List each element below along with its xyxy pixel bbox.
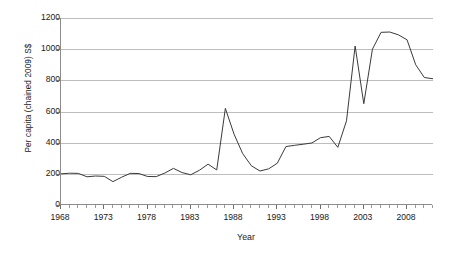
x-axis-tick-label: 1973 [83, 212, 123, 222]
x-axis-minor-tick [432, 205, 433, 208]
x-axis-minor-tick [380, 205, 381, 208]
x-axis-minor-tick [294, 205, 295, 208]
x-axis-minor-tick [328, 205, 329, 208]
y-axis-tick-label: 800 [26, 75, 60, 84]
x-axis-minor-tick [423, 205, 424, 208]
x-axis-minor-tick [155, 205, 156, 208]
x-axis-tick-label: 2003 [343, 212, 383, 222]
x-axis-minor-tick [371, 205, 372, 208]
x-axis-minor-tick [302, 205, 303, 208]
x-axis-minor-tick [138, 205, 139, 208]
x-axis-minor-tick [216, 205, 217, 208]
x-axis-tick-label: 1993 [256, 212, 296, 222]
x-axis-tick-group: 196819731978198319881993199820032008 [0, 205, 449, 235]
x-axis-minor-tick [345, 205, 346, 208]
x-axis-minor-tick [354, 205, 355, 208]
x-axis-minor-tick [389, 205, 390, 208]
x-axis-minor-tick [285, 205, 286, 208]
y-axis-tick-label: 1200 [26, 13, 60, 22]
x-axis-tick-label: 1983 [170, 212, 210, 222]
x-axis-minor-tick [77, 205, 78, 208]
x-axis-minor-tick [250, 205, 251, 208]
x-axis-major-tick [276, 205, 277, 209]
x-axis-title: Year [60, 232, 432, 242]
x-axis-minor-tick [268, 205, 269, 208]
x-axis-major-tick [320, 205, 321, 209]
x-axis-minor-tick [242, 205, 243, 208]
x-axis-tick-label: 1978 [127, 212, 167, 222]
x-axis-minor-tick [198, 205, 199, 208]
x-axis-major-tick [363, 205, 364, 209]
x-axis-minor-tick [337, 205, 338, 208]
y-axis-tick-label: 400 [26, 138, 60, 147]
x-axis-minor-tick [311, 205, 312, 208]
x-axis-major-tick [147, 205, 148, 209]
x-axis-major-tick [60, 205, 61, 209]
x-axis-minor-tick [129, 205, 130, 208]
chart-container: Per capita (chained 2009) S$ 02004006008… [0, 0, 449, 260]
x-axis-minor-tick [86, 205, 87, 208]
x-axis-minor-tick [172, 205, 173, 208]
x-axis-major-tick [190, 205, 191, 209]
y-axis-tick-label: 1000 [26, 44, 60, 53]
x-axis-tick-label: 1968 [40, 212, 80, 222]
x-axis-minor-tick [121, 205, 122, 208]
x-axis-tick-label: 1988 [213, 212, 253, 222]
x-axis-minor-tick [181, 205, 182, 208]
x-axis-minor-tick [95, 205, 96, 208]
x-axis-minor-tick [207, 205, 208, 208]
x-axis-tick-label: 2008 [386, 212, 426, 222]
x-axis-tick-label: 1998 [300, 212, 340, 222]
x-axis-minor-tick [164, 205, 165, 208]
x-axis-minor-tick [415, 205, 416, 208]
x-axis-minor-tick [69, 205, 70, 208]
x-axis-minor-tick [224, 205, 225, 208]
x-axis-minor-tick [259, 205, 260, 208]
x-axis-minor-tick [112, 205, 113, 208]
y-axis-tick-label: 600 [26, 107, 60, 116]
x-axis-minor-tick [397, 205, 398, 208]
x-axis-major-tick [103, 205, 104, 209]
plot-area [60, 18, 432, 205]
data-series-line [61, 18, 433, 205]
x-axis-major-tick [233, 205, 234, 209]
x-axis-major-tick [406, 205, 407, 209]
y-axis-tick-label: 200 [26, 169, 60, 178]
